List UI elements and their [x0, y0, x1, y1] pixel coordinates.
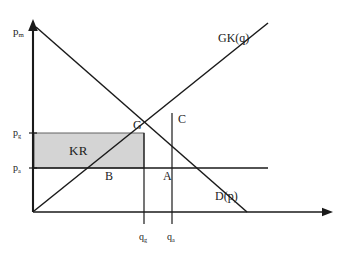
kr-region-label: KR — [69, 144, 88, 157]
diagram-canvas — [0, 0, 346, 260]
supply-demand-figure: pm pg pa qg qa KR G C A B GK(q) D(p) — [0, 0, 346, 260]
quantity-label-g: qg — [139, 232, 147, 242]
y-axis-arrowhead — [28, 19, 38, 31]
supply-curve-label: GK(q) — [218, 32, 249, 44]
kr-shaded-region — [34, 133, 144, 168]
price-label-upper: pg — [13, 128, 21, 138]
demand-curve-label: D(p) — [215, 190, 238, 202]
point-label-c: C — [178, 113, 186, 125]
point-label-g: G — [133, 119, 142, 131]
y-axis-label: pm — [13, 26, 24, 37]
supply-curve — [34, 23, 268, 211]
point-label-b: B — [105, 170, 113, 182]
point-label-a: A — [163, 170, 172, 182]
quantity-label-a: qa — [167, 232, 175, 242]
price-label-lower: pa — [13, 163, 21, 173]
x-axis-arrowhead — [322, 208, 333, 216]
